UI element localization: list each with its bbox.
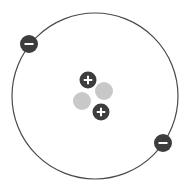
atom-diagram (0, 0, 188, 190)
electron (154, 134, 172, 152)
proton (80, 72, 97, 89)
proton (93, 104, 110, 121)
electron-orbit (12, 13, 178, 179)
neutron (73, 92, 91, 110)
electron (20, 35, 38, 53)
neutron (95, 82, 113, 100)
nucleus (73, 72, 113, 121)
